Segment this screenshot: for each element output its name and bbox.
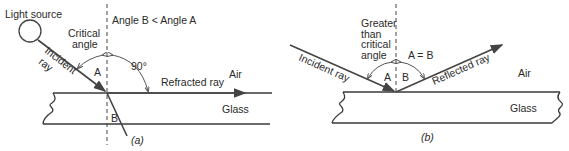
angle-b-label-b: B [402,71,409,83]
angle-a-label-b: A [384,71,391,83]
equality-label: A = B [408,49,433,61]
angle-a-label: A [94,66,101,78]
greater-label-4: angle [361,49,387,61]
condition-label: Angle B < Angle A [112,14,196,26]
glass-label-a: Glass [222,103,249,115]
panel-a: Light source Angle B < Angle A Critical … [5,4,272,146]
critical-angle-label-2: angle [72,38,98,50]
panel-b: Greater than critical angle A = B Incide… [290,4,562,143]
caption-a: (a) [131,134,144,146]
refraction-reflection-diagram: Light source Angle B < Angle A Critical … [0,0,569,151]
caption-b: (b) [421,131,434,143]
air-label-a: Air [229,68,242,80]
right-angle-label: 90° [131,60,147,72]
incident-ray-label-b: Incident ray [297,51,352,84]
glass-label-b: Glass [510,102,537,114]
air-label-b: Air [518,67,531,79]
light-source-label: Light source [5,8,62,20]
angle-b-label: B [111,112,118,124]
refracted-ray-label: Refracted ray [161,76,225,88]
light-source-icon [19,20,41,42]
reflected-ray-label: Reflected ray [430,50,492,86]
